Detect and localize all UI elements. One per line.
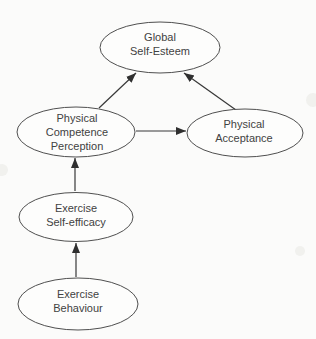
- node-exercise-self-efficacy: Exercise Self-efficacy: [19, 193, 133, 242]
- edges: [75, 73, 236, 277]
- node-label-line: Perception: [51, 140, 104, 152]
- node-exercise-behaviour: Exercise Behaviour: [18, 278, 138, 330]
- node-label-line: Self-efficacy: [46, 216, 106, 228]
- node-label-line: Exercise: [57, 288, 99, 300]
- node-label-line: Exercise: [55, 202, 97, 214]
- scan-smudge: [0, 164, 8, 176]
- node-label-line: Physical: [57, 112, 98, 124]
- node-label-line: Physical: [224, 118, 265, 130]
- path-diagram: Global Self-Esteem Physical Competence P…: [0, 0, 316, 339]
- node-physical-acceptance: Physical Acceptance: [187, 109, 303, 157]
- node-label-line: Competence: [46, 126, 108, 138]
- node-label-line: Behaviour: [53, 302, 103, 314]
- node-physical-competence-perception: Physical Competence Perception: [17, 107, 135, 157]
- node-global-self-esteem: Global Self-Esteem: [100, 22, 220, 73]
- node-label-line: Acceptance: [215, 132, 272, 144]
- scan-smudge: [306, 93, 316, 107]
- node-label-line: Global: [144, 31, 176, 43]
- edge-physical-acceptance-to-global-self-esteem: [184, 73, 236, 110]
- scan-smudge: [295, 246, 305, 256]
- edge-physical-competence-perception-to-global-self-esteem: [99, 73, 136, 108]
- scanned-figure-page: Global Self-Esteem Physical Competence P…: [0, 0, 316, 339]
- node-label-line: Self-Esteem: [130, 45, 190, 57]
